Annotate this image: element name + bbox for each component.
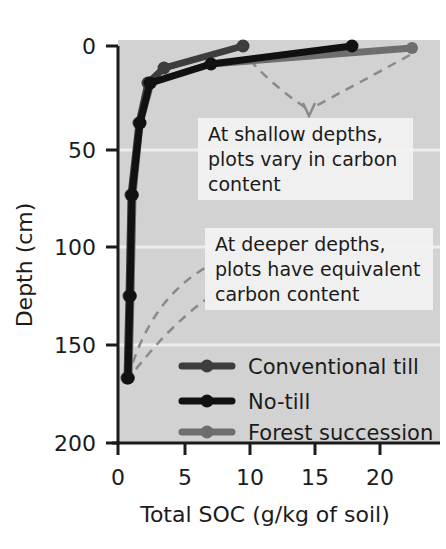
legend-label-no-till: No-till [248, 390, 310, 414]
legend-marker-conventional-till [201, 360, 214, 373]
annotation-deep-line3: carbon content [215, 283, 359, 305]
x-tick-label-0: 0 [111, 465, 125, 490]
soil-carbon-depth-chart: 0 50 100 150 200 0 5 10 15 20 Total SOC … [0, 0, 446, 549]
x-tick-label-10: 10 [236, 465, 264, 490]
annotation-shallow-line3: content [208, 173, 281, 195]
x-tick-label-20: 20 [366, 465, 394, 490]
x-axis-title: Total SOC (g/kg of soil) [139, 502, 390, 527]
x-tick-label-5: 5 [178, 465, 192, 490]
y-tick-label-50: 50 [68, 138, 96, 163]
legend-marker-no-till [201, 395, 214, 408]
annotation-deep: At deeper depths, plots have equivalent … [205, 228, 433, 310]
y-tick-label-150: 150 [54, 333, 96, 358]
legend-marker-forest-succession [201, 426, 214, 439]
legend-label-forest-succession: Forest succession [248, 421, 433, 445]
y-tick-label-100: 100 [54, 235, 96, 260]
y-axis-title: Depth (cm) [12, 203, 37, 328]
chart-figure: 0 50 100 150 200 0 5 10 15 20 Total SOC … [0, 0, 446, 549]
annotation-shallow-line1: At shallow depths, [208, 123, 383, 145]
annotation-deep-line1: At deeper depths, [215, 233, 385, 255]
x-tick-label-15: 15 [301, 465, 329, 490]
annotation-shallow: At shallow depths, plots vary in carbon … [198, 118, 413, 200]
y-tick-label-0: 0 [82, 34, 96, 59]
y-axis-ticks [106, 46, 118, 443]
y-tick-label-200: 200 [54, 431, 96, 456]
legend-label-conventional-till: Conventional till [248, 355, 419, 379]
annotation-shallow-line2: plots vary in carbon [208, 148, 397, 170]
annotation-deep-line2: plots have equivalent [215, 258, 420, 280]
